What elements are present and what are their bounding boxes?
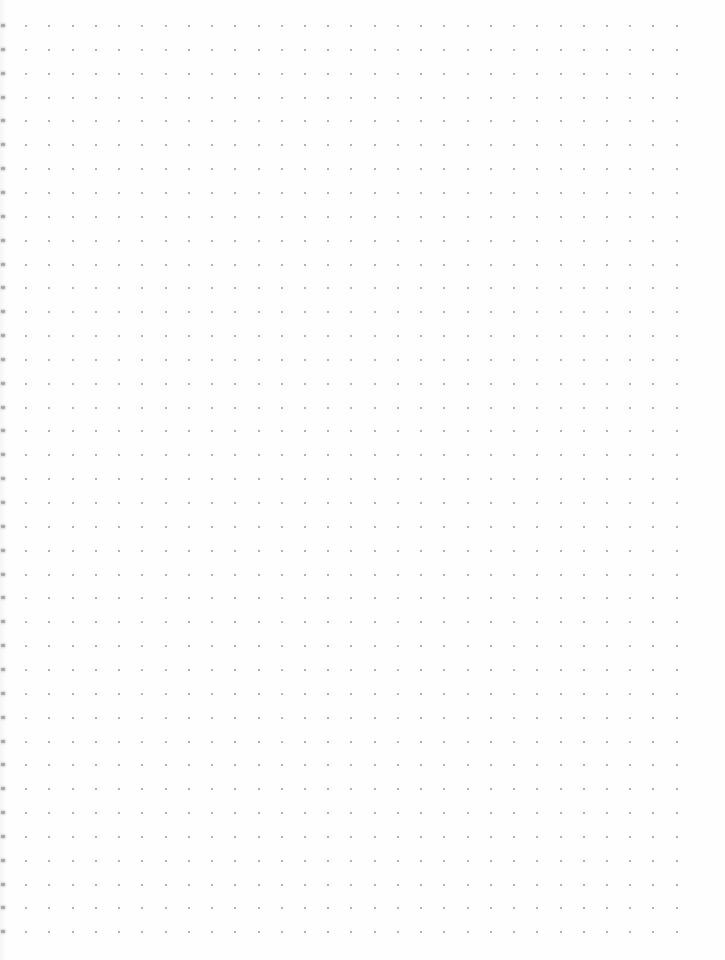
grid-dot	[281, 907, 283, 909]
grid-dot	[560, 645, 562, 647]
grid-dot	[141, 454, 143, 456]
grid-dot	[281, 574, 283, 576]
grid-dot	[467, 860, 469, 862]
grid-dot	[48, 240, 50, 242]
grid-dot	[536, 25, 538, 27]
grid-dot	[676, 192, 678, 194]
grid-dot	[234, 550, 236, 552]
grid-dot	[583, 526, 585, 528]
grid-dot	[490, 907, 492, 909]
grid-dot	[327, 430, 329, 432]
grid-dot	[25, 120, 27, 122]
grid-dot	[281, 764, 283, 766]
grid-dot	[211, 550, 213, 552]
grid-dot	[652, 764, 654, 766]
grid-dot	[583, 216, 585, 218]
binding-mark	[1, 239, 5, 242]
grid-dot	[560, 907, 562, 909]
grid-dot	[141, 144, 143, 146]
grid-dot	[676, 693, 678, 695]
grid-dot	[629, 73, 631, 75]
grid-dot	[350, 836, 352, 838]
grid-dot	[48, 669, 50, 671]
grid-dot	[560, 717, 562, 719]
grid-dot	[536, 860, 538, 862]
binding-mark	[1, 191, 5, 194]
grid-dot	[165, 359, 167, 361]
grid-dot	[536, 669, 538, 671]
grid-dot	[118, 264, 120, 266]
grid-dot	[652, 359, 654, 361]
grid-dot	[141, 884, 143, 886]
grid-dot	[467, 812, 469, 814]
grid-dot	[48, 717, 50, 719]
grid-dot	[141, 311, 143, 313]
grid-dot	[629, 311, 631, 313]
grid-dot	[652, 621, 654, 623]
grid-dot	[118, 907, 120, 909]
grid-dot	[304, 335, 306, 337]
grid-dot	[583, 931, 585, 933]
grid-dot	[211, 478, 213, 480]
grid-dot	[467, 645, 469, 647]
grid-dot	[327, 884, 329, 886]
grid-dot	[48, 73, 50, 75]
grid-dot	[560, 383, 562, 385]
grid-dot	[443, 574, 445, 576]
grid-dot	[72, 574, 74, 576]
grid-dot	[211, 144, 213, 146]
grid-dot	[350, 383, 352, 385]
grid-dot	[234, 645, 236, 647]
grid-dot	[165, 621, 167, 623]
grid-dot	[234, 788, 236, 790]
grid-dot	[25, 454, 27, 456]
grid-dot	[165, 49, 167, 51]
grid-dot	[141, 621, 143, 623]
grid-dot	[118, 287, 120, 289]
grid-dot	[490, 97, 492, 99]
grid-dot	[397, 168, 399, 170]
grid-dot	[350, 860, 352, 862]
grid-dot	[420, 860, 422, 862]
grid-dot	[374, 812, 376, 814]
grid-dot	[211, 73, 213, 75]
grid-dot	[211, 25, 213, 27]
grid-dot	[350, 574, 352, 576]
grid-dot	[258, 407, 260, 409]
grid-dot	[165, 884, 167, 886]
grid-dot	[374, 407, 376, 409]
grid-dot	[676, 741, 678, 743]
grid-dot	[606, 216, 608, 218]
grid-dot	[536, 645, 538, 647]
grid-dot	[188, 717, 190, 719]
grid-dot	[188, 73, 190, 75]
grid-dot	[118, 335, 120, 337]
grid-dot	[374, 884, 376, 886]
grid-dot	[397, 717, 399, 719]
grid-dot	[327, 669, 329, 671]
grid-dot	[560, 693, 562, 695]
grid-dot	[95, 264, 97, 266]
grid-dot	[443, 383, 445, 385]
grid-dot	[652, 884, 654, 886]
grid-dot	[397, 788, 399, 790]
grid-dot	[374, 645, 376, 647]
grid-dot	[304, 192, 306, 194]
grid-dot	[165, 574, 167, 576]
grid-dot	[258, 192, 260, 194]
grid-dot	[513, 550, 515, 552]
grid-dot	[72, 597, 74, 599]
grid-dot	[118, 73, 120, 75]
grid-dot	[258, 764, 260, 766]
grid-dot	[513, 717, 515, 719]
grid-dot	[467, 216, 469, 218]
grid-dot	[490, 49, 492, 51]
grid-dot	[443, 144, 445, 146]
grid-dot	[72, 73, 74, 75]
grid-dot	[606, 454, 608, 456]
grid-dot	[48, 741, 50, 743]
grid-dot	[25, 550, 27, 552]
grid-dot	[513, 574, 515, 576]
grid-dot	[467, 168, 469, 170]
grid-dot	[165, 287, 167, 289]
